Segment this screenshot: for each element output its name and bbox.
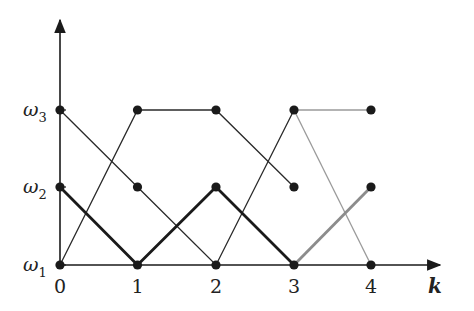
node-k2-w1	[211, 260, 220, 269]
node-k4-w3	[366, 105, 375, 114]
node-k3-w1	[289, 260, 298, 269]
path-a	[60, 110, 294, 265]
x-tick-label-4: 4	[365, 275, 377, 297]
node-k4-w2	[366, 182, 375, 191]
y-label-omega-2: ω2	[23, 175, 47, 202]
node-k1-w1	[133, 260, 142, 269]
path-c-extension	[294, 187, 371, 265]
x-axis-labels: 01234	[54, 275, 377, 297]
y-label-omega-3: ω3	[23, 98, 47, 125]
node-k3-w3	[289, 105, 298, 114]
path-b	[60, 110, 294, 265]
y-label-omega-1: ω1	[23, 253, 47, 280]
path-b-branch-2	[294, 110, 371, 265]
trellis-diagram: ω1ω2ω3 01234 k	[0, 0, 474, 311]
path-c	[60, 187, 294, 265]
node-k1-w2	[133, 182, 142, 191]
node-k2-w3	[211, 105, 220, 114]
x-tick-label-1: 1	[131, 275, 143, 297]
x-axis-title: k	[428, 274, 442, 298]
nodes-layer	[55, 105, 375, 269]
x-tick-label-3: 3	[288, 275, 300, 297]
node-k2-w2	[211, 182, 220, 191]
node-k3-w2	[289, 182, 298, 191]
x-tick-label-2: 2	[210, 275, 222, 297]
x-tick-label-0: 0	[54, 275, 66, 297]
node-k4-w1	[366, 260, 375, 269]
node-k1-w3	[133, 105, 142, 114]
